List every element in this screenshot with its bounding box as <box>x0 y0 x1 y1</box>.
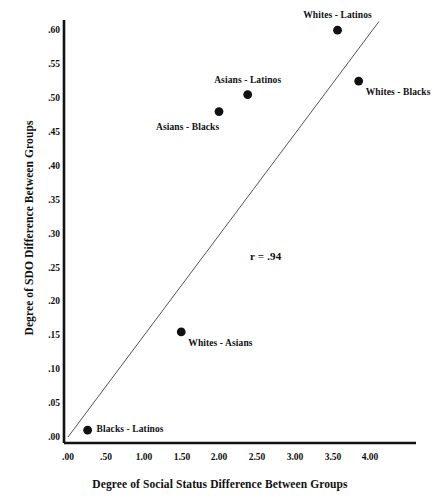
point-label-whites-asians: Whites - Asians <box>188 338 252 349</box>
data-point <box>354 77 363 86</box>
x-tick-label: 3.50 <box>313 452 353 462</box>
point-label-blacks-latinos: Blacks - Latinos <box>97 424 164 435</box>
x-tick-label: 1.00 <box>124 452 164 462</box>
x-axis-tick-labels: .00 .50 1.00 1.50 2.00 2.50 3.00 3.50 4.… <box>0 452 440 466</box>
point-label-asians-latinos: Asians - Latinos <box>188 75 308 86</box>
data-point <box>333 26 342 35</box>
x-tick-label: 3.00 <box>275 452 315 462</box>
point-label-asians-blacks: Asians - Blacks <box>156 122 219 133</box>
data-point <box>215 107 224 116</box>
data-point <box>83 426 92 435</box>
correlation-annotation: r = .94 <box>250 250 282 262</box>
x-axis-title: Degree of Social Status Difference Betwe… <box>0 478 440 490</box>
point-label-whites-blacks: Whites - Blacks <box>366 87 431 98</box>
x-tick-label: 1.50 <box>162 452 202 462</box>
x-tick-label: 2.50 <box>237 452 277 462</box>
x-tick-label: 2.00 <box>199 452 239 462</box>
data-point <box>177 328 186 337</box>
x-tick-label: .00 <box>48 452 88 462</box>
scatter-plot-figure: Degree of SDO Difference Between Groups … <box>0 0 440 504</box>
data-point <box>243 90 252 99</box>
point-label-whites-latinos: Whites - Latinos <box>278 10 398 21</box>
x-tick-label: .50 <box>86 452 126 462</box>
x-tick-label: 4.00 <box>350 452 390 462</box>
